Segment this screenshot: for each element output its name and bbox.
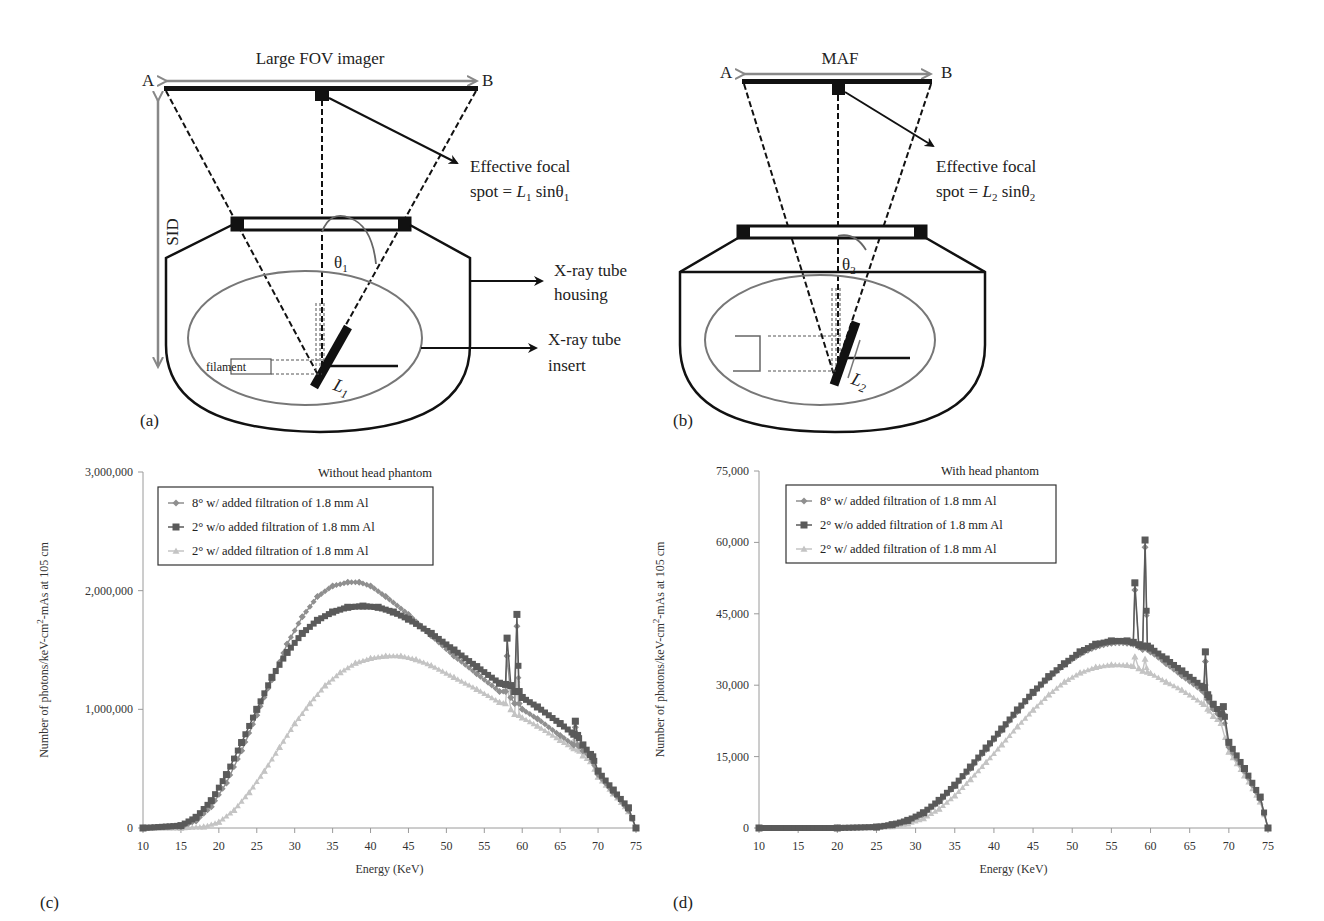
legend-entry: 2° w/o added filtration of 1.8 mm Al [820, 518, 1003, 532]
x-tick-label: 15 [792, 839, 804, 853]
x-tick-label: 55 [478, 839, 490, 853]
y-tick-label: 3,000,000 [85, 465, 133, 479]
series-0 [756, 544, 1272, 832]
legend-entry: 8° w/ added filtration of 1.8 mm Al [192, 496, 369, 510]
y-tick-label: 2,000,000 [85, 584, 133, 598]
L-label-a: L1 [329, 374, 353, 401]
filament-label: filament [206, 360, 247, 374]
point-b-label: B [482, 71, 493, 90]
legend: 8° w/ added filtration of 1.8 mm Al2° w/… [158, 487, 433, 565]
legend: 8° w/ added filtration of 1.8 mm Al2° w/… [786, 485, 1056, 563]
x-tick-label: 60 [1145, 839, 1157, 853]
x-tick-label: 20 [831, 839, 843, 853]
legend-entry: 2° w/ added filtration of 1.8 mm Al [820, 542, 997, 556]
y-tick-label: 30,000 [716, 678, 749, 692]
focal-text-a-2: spot = L1 sinθ1 [470, 182, 569, 203]
point-a-label-b: A [720, 63, 733, 82]
panel-b-diagram: MAF A B Effective focal spot = L2 sinθ2 … [673, 49, 1036, 432]
x-tick-label: 75 [630, 839, 642, 853]
y-tick-label: 0 [743, 821, 749, 835]
y-tick-label: 0 [127, 821, 133, 835]
series-1 [140, 603, 640, 832]
focal-marker-b [832, 82, 845, 95]
theta-label-b: θ2 [842, 255, 856, 276]
housing-label-2: housing [554, 285, 608, 304]
x-tick-label: 40 [365, 839, 377, 853]
x-tick-label: 55 [1105, 839, 1117, 853]
x-tick-label: 45 [402, 839, 414, 853]
housing-label-1: X-ray tube [554, 261, 627, 280]
sid-label: SID [163, 218, 182, 245]
x-tick-label: 35 [949, 839, 961, 853]
point-a-label: A [142, 71, 155, 90]
tube-insert-ellipse-a [188, 271, 422, 405]
x-tick-label: 50 [440, 839, 452, 853]
x-tick-label: 30 [289, 839, 301, 853]
insert-label-1: X-ray tube [548, 330, 621, 349]
x-tick-label: 50 [1066, 839, 1078, 853]
panel-label-b: (b) [673, 411, 693, 430]
imager-title-b: MAF [822, 49, 859, 68]
x-tick-label: 10 [137, 839, 149, 853]
x-tick-label: 20 [213, 839, 225, 853]
y-tick-label: 75,000 [716, 464, 749, 478]
x-tick-label: 65 [554, 839, 566, 853]
collimator-b [738, 226, 926, 238]
x-tick-label: 65 [1184, 839, 1196, 853]
y-axis-title: Number of photons/keV-cm2-mAs at 105 cm [651, 541, 667, 757]
x-tick-label: 35 [327, 839, 339, 853]
panel-label-a: (a) [140, 411, 159, 430]
figure-canvas: Large FOV imager A B Effective focal spo… [0, 0, 1324, 921]
focal-text-b-2: spot = L2 sinθ2 [936, 182, 1035, 203]
x-tick-label: 70 [1223, 839, 1235, 853]
chart-c-without-phantom: 01,000,0002,000,0003,000,000101520253035… [35, 465, 642, 876]
x-tick-label: 15 [175, 839, 187, 853]
chart-title: Without head phantom [318, 466, 432, 480]
panel-label-d: (d) [673, 893, 693, 912]
panel-a-diagram: Large FOV imager A B Effective focal spo… [140, 49, 627, 432]
point-b-label-b: B [941, 63, 952, 82]
chart-title: With head phantom [941, 464, 1039, 478]
chart-d-with-phantom: 015,00030,00045,00060,00075,000101520253… [651, 464, 1274, 876]
legend-entry: 2° w/o added filtration of 1.8 mm Al [192, 520, 375, 534]
x-tick-label: 25 [251, 839, 263, 853]
x-tick-label: 75 [1262, 839, 1274, 853]
y-tick-label: 60,000 [716, 535, 749, 549]
x-tick-label: 30 [910, 839, 922, 853]
x-tick-label: 70 [592, 839, 604, 853]
x-axis-title: Energy (KeV) [979, 862, 1047, 876]
x-axis-title: Energy (KeV) [355, 862, 423, 876]
tube-housing-a [166, 225, 470, 432]
filament-b [733, 336, 760, 371]
x-tick-label: 45 [1027, 839, 1039, 853]
focal-text-a-1: Effective focal [470, 157, 570, 176]
focal-text-b-1: Effective focal [936, 157, 1036, 176]
focal-marker-a [315, 87, 329, 101]
theta-label-a: θ1 [334, 253, 348, 274]
y-tick-label: 15,000 [716, 750, 749, 764]
y-tick-label: 1,000,000 [85, 702, 133, 716]
tube-insert-ellipse-b [705, 275, 935, 405]
panel-label-c: (c) [40, 893, 59, 912]
focal-arrow-a [329, 98, 457, 163]
x-tick-label: 25 [870, 839, 882, 853]
x-tick-label: 10 [753, 839, 765, 853]
x-tick-label: 40 [988, 839, 1000, 853]
collimator-a [232, 218, 410, 230]
legend-entry: 2° w/ added filtration of 1.8 mm Al [192, 544, 369, 558]
y-tick-label: 45,000 [716, 607, 749, 621]
x-tick-label: 60 [516, 839, 528, 853]
insert-label-2: insert [548, 356, 586, 375]
imager-title-a: Large FOV imager [256, 49, 385, 68]
y-axis-title: Number of photons/keV-cm2-mAs at 105 cm [35, 541, 51, 757]
legend-entry: 8° w/ added filtration of 1.8 mm Al [820, 494, 997, 508]
